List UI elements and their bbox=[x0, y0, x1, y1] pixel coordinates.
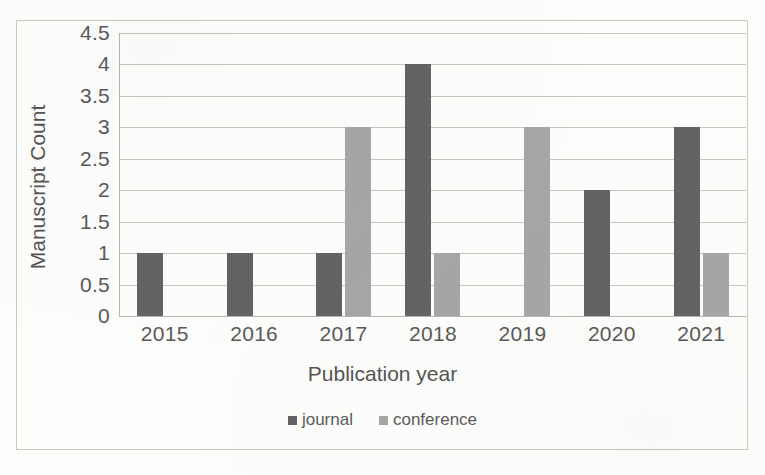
legend-label-conference: conference bbox=[393, 410, 477, 430]
bar-journal-2016 bbox=[227, 253, 253, 316]
legend-label-journal: journal bbox=[302, 410, 353, 430]
y-axis-tick-label: 0.5 bbox=[80, 273, 110, 297]
y-axis-tick-label: 3.5 bbox=[80, 84, 110, 108]
y-axis-tick-label: 2 bbox=[98, 178, 110, 202]
y-axis-tick-labels: 4.543.532.521.510.50 bbox=[60, 33, 116, 316]
bar-group-2020 bbox=[567, 33, 656, 316]
bar-conference-2021 bbox=[703, 253, 729, 316]
bar-group-2021 bbox=[657, 33, 746, 316]
y-axis-tick-label: 1 bbox=[98, 241, 110, 265]
y-axis-tick-label: 2.5 bbox=[80, 147, 110, 171]
x-axis-tick-label: 2018 bbox=[409, 322, 457, 346]
legend-swatch-journal bbox=[288, 416, 297, 425]
bar-journal-2017 bbox=[316, 253, 342, 316]
y-axis-tick-label: 0 bbox=[98, 304, 110, 328]
legend-item-conference[interactable]: conference bbox=[379, 410, 477, 430]
chart-legend: journalconference bbox=[0, 410, 765, 430]
legend-item-journal[interactable]: journal bbox=[288, 410, 353, 430]
x-axis-tick-labels: 2015201620172018201920202021 bbox=[120, 322, 746, 356]
bar-conference-2017 bbox=[345, 127, 371, 316]
x-axis-tick-label: 2015 bbox=[141, 322, 189, 346]
y-axis-tick-label: 1.5 bbox=[80, 210, 110, 234]
x-axis-title: Publication year bbox=[0, 362, 765, 386]
x-axis-tick-label: 2019 bbox=[498, 322, 546, 346]
bar-conference-2019 bbox=[524, 127, 550, 316]
x-axis-tick-label: 2016 bbox=[230, 322, 278, 346]
y-axis-title: Manuscript Count bbox=[26, 57, 50, 317]
bar-group-2017 bbox=[299, 33, 388, 316]
x-axis-tick-label: 2020 bbox=[588, 322, 636, 346]
bar-group-2019 bbox=[478, 33, 567, 316]
x-axis-tick-label: 2017 bbox=[320, 322, 368, 346]
legend-swatch-conference bbox=[379, 416, 388, 425]
y-axis-tick-label: 3 bbox=[98, 115, 110, 139]
bar-group-2016 bbox=[209, 33, 298, 316]
bar-journal-2015 bbox=[137, 253, 163, 316]
gridline bbox=[120, 316, 746, 317]
x-axis-tick-label: 2021 bbox=[677, 322, 725, 346]
bar-journal-2020 bbox=[584, 190, 610, 316]
y-axis-tick-label: 4.5 bbox=[80, 21, 110, 45]
bar-group-2015 bbox=[120, 33, 209, 316]
bar-journal-2021 bbox=[674, 127, 700, 316]
bar-group-2018 bbox=[388, 33, 477, 316]
y-axis-tick-label: 4 bbox=[98, 52, 110, 76]
bar-conference-2018 bbox=[434, 253, 460, 316]
bar-journal-2018 bbox=[405, 64, 431, 316]
plot-area bbox=[120, 33, 746, 316]
